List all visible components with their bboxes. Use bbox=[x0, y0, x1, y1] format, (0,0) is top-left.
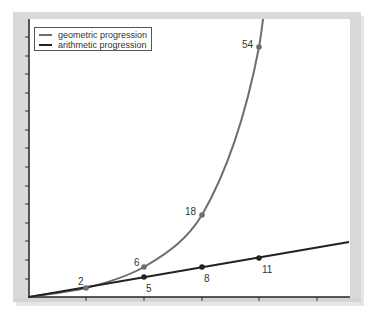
label-arith-11: 11 bbox=[262, 264, 273, 275]
label-geo-18: 18 bbox=[185, 206, 197, 217]
label-geo-2: 2 bbox=[78, 276, 84, 287]
label-geo-54: 54 bbox=[242, 39, 254, 50]
legend-label-geometric: geometric progression bbox=[58, 30, 147, 40]
legend-label-arithmetic: arithmetic progression bbox=[58, 40, 147, 50]
legend-item-geometric: geometric progression bbox=[39, 30, 147, 40]
label-arith-8: 8 bbox=[204, 273, 210, 284]
label-geo-6: 6 bbox=[134, 257, 140, 268]
label-arith-5: 5 bbox=[146, 283, 152, 294]
legend-swatch-geometric bbox=[39, 34, 52, 36]
legend: geometric progression arithmetic progres… bbox=[34, 27, 152, 51]
legend-item-arithmetic: arithmetic progression bbox=[39, 40, 147, 50]
legend-swatch-arithmetic bbox=[39, 44, 52, 46]
panel-bottom-band bbox=[13, 298, 361, 302]
plot-area bbox=[29, 19, 350, 297]
